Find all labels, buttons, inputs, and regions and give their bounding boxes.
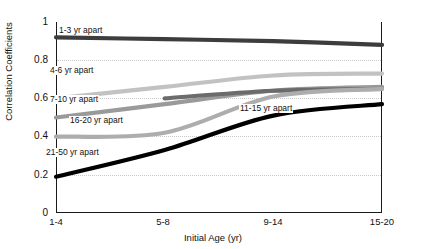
series-label-4-6-yr: 4-6 yr apart xyxy=(49,66,94,75)
series-label-7-10-yr: 7-10 yr apart xyxy=(49,95,99,104)
y-axis-title: Correlation Coefficients xyxy=(3,12,14,132)
x-tick-label: 5-8 xyxy=(133,217,193,227)
series-label-11-15-yr: 11-15 yr apart xyxy=(239,104,293,113)
x-tick-label: 9-14 xyxy=(243,217,303,227)
x-axis-title: Initial Age (yr) xyxy=(0,232,426,243)
correlation-coefficients-line-chart: Correlation Coefficients 1 0.8 0.6 0.4 0… xyxy=(0,0,426,249)
y-tick-label: 0.8 xyxy=(12,55,48,65)
y-tick-label: 0.4 xyxy=(12,131,48,141)
x-tick-label: 1-4 xyxy=(26,217,86,227)
y-tick-label: 0.6 xyxy=(12,93,48,103)
series-label-21-50-yr: 21-50 yr apart xyxy=(45,148,100,157)
gridline xyxy=(57,136,381,137)
gridline xyxy=(57,98,381,99)
series-label-1-3-yr: 1-3 yr apart xyxy=(58,26,103,35)
series-label-16-20-yr: 16-20 yr apart xyxy=(69,116,124,125)
y-tick-label: 1 xyxy=(12,17,48,27)
y-tick-label: 0.2 xyxy=(12,170,48,180)
gridline xyxy=(57,60,381,61)
gridline xyxy=(57,175,381,176)
x-tick-label: 15-20 xyxy=(352,217,412,227)
